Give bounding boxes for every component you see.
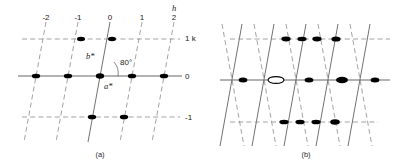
node — [371, 78, 380, 83]
reciprocal-lattice-figure: -2 -1 0 1 2 h 1 k 0 -1 b* a* 80° (a) — [0, 0, 400, 165]
node — [311, 120, 320, 125]
lattice-nodes — [32, 37, 168, 120]
h-line-minus1 — [56, 22, 78, 142]
node — [128, 74, 136, 79]
panel-a-caption: (a) — [95, 150, 105, 159]
twin1-line — [220, 24, 242, 146]
twin-domain-2-lines — [222, 24, 372, 146]
node — [108, 37, 116, 41]
h-tick-label-plus2: 2 — [172, 13, 177, 22]
node-origin — [96, 73, 104, 79]
node — [64, 74, 72, 79]
h-line-plus1 — [120, 22, 142, 142]
node — [305, 78, 314, 83]
panel-a-plot: -2 -1 0 1 2 h 1 k 0 -1 b* a* 80° (a) — [0, 0, 200, 165]
interaxial-angle-arc — [114, 62, 118, 76]
node-coincident-open — [268, 77, 284, 84]
h-tick-label-minus2: -2 — [42, 13, 50, 22]
panel-b-caption: (b) — [301, 150, 311, 159]
twin1-line — [316, 24, 338, 146]
node — [281, 37, 290, 42]
b-star-axis-label: b* — [86, 51, 95, 61]
panel-a: -2 -1 0 1 2 h 1 k 0 -1 b* a* 80° (a) — [0, 0, 200, 165]
node — [297, 37, 306, 41]
k-tick-label-zero: 0 — [185, 72, 190, 81]
h-lattice-lines — [24, 22, 174, 142]
h-tick-label-zero: 0 — [108, 13, 113, 22]
panel-b: (b) — [200, 0, 400, 165]
h-tick-label-minus1: -1 — [74, 13, 82, 22]
twin2-line — [222, 24, 244, 146]
lattice-nodes-row-plus1 — [281, 36, 340, 41]
h-axis-label: h — [172, 3, 176, 13]
a-star-axis-label: a* — [104, 81, 113, 91]
twin1-line — [348, 24, 370, 146]
node — [239, 78, 248, 83]
node — [331, 36, 340, 41]
node — [295, 120, 304, 125]
node — [279, 120, 288, 125]
twin1-line — [284, 24, 306, 146]
panel-b-plot: (b) — [200, 0, 400, 165]
h-tick-label-plus1: 1 — [140, 13, 145, 22]
twin2-line — [254, 24, 276, 146]
twin2-line — [318, 24, 340, 146]
node — [160, 74, 168, 79]
twin2-line — [350, 24, 372, 146]
node — [77, 37, 85, 41]
h-line-plus2 — [152, 22, 174, 142]
node — [336, 77, 348, 83]
node — [312, 37, 321, 42]
twin1-line — [252, 24, 274, 146]
interaxial-angle-label: 80° — [120, 58, 132, 67]
k-tick-label-plus1: 1 k — [185, 34, 197, 43]
node — [330, 119, 340, 125]
node — [32, 74, 40, 79]
twin2-line — [286, 24, 308, 146]
node — [88, 115, 96, 120]
node — [120, 115, 128, 120]
h-line-minus2 — [24, 22, 46, 142]
k-tick-label-minus1: -1 — [185, 113, 193, 122]
twin-domain-1-lines — [220, 24, 370, 146]
